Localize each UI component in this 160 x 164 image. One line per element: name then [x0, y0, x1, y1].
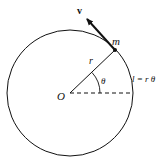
radius-label: r: [89, 55, 93, 66]
center-label: O: [57, 90, 65, 102]
angle-arc: [92, 73, 100, 94]
circular-motion-diagram: v m r θ O l = r θ: [0, 0, 160, 164]
velocity-arrow: [87, 19, 115, 50]
angle-label: θ: [101, 76, 106, 86]
velocity-label: v: [77, 5, 82, 16]
mass-label: m: [112, 35, 120, 47]
arc-length-label: l = r θ: [132, 74, 156, 84]
